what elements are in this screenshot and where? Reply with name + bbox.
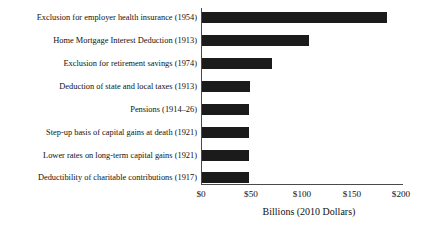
bar [202,104,249,115]
category-label: Lower rates on long-term capital gains (… [0,150,197,161]
chart-row: Step-up basis of capital gains at death … [0,127,426,149]
bar [202,150,249,161]
chart-row: Exclusion for retirement savings (1974) [0,58,426,80]
category-label: Deductibility of charitable contribution… [0,172,197,183]
category-label: Home Mortgage Interest Deduction (1913) [0,35,197,46]
tax-expenditures-bar-chart: Exclusion for employer health insurance … [0,0,426,233]
x-tick-label: $50 [244,188,258,200]
chart-row: Deduction of state and local taxes (1913… [0,81,426,103]
x-axis-title: Billions (2010 Dollars) [0,205,426,218]
bar [202,127,249,138]
x-axis-title-text: Billions (2010 Dollars) [263,205,356,218]
x-tick-label: $200 [392,188,410,200]
category-label: Step-up basis of capital gains at death … [0,127,197,138]
chart-row: Lower rates on long-term capital gains (… [0,150,426,172]
category-label: Pensions (1914–26) [0,104,197,115]
bar [202,58,272,69]
chart-row: Home Mortgage Interest Deduction (1913) [0,35,426,57]
x-axis-tick-labels: $0 $50 $100 $150 $200 [0,188,426,202]
chart-row: Exclusion for employer health insurance … [0,12,426,34]
category-label: Exclusion for retirement savings (1974) [0,58,197,69]
bar [202,172,249,183]
x-tick-label: $0 [196,188,205,200]
category-label: Exclusion for employer health insurance … [0,12,197,23]
x-tick-label: $100 [293,188,311,200]
bar [202,35,309,46]
bar [202,81,250,92]
x-tick-label: $150 [343,188,361,200]
category-label: Deduction of state and local taxes (1913… [0,81,197,92]
bar [202,12,387,23]
chart-row: Pensions (1914–26) [0,104,426,126]
